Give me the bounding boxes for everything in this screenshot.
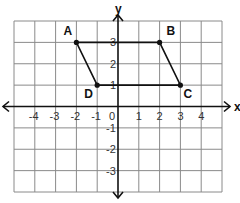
x-tick-label: 4 <box>198 110 204 122</box>
x-tick-label: -1 <box>91 110 101 122</box>
point-label-b: B <box>167 24 176 38</box>
x-tick-label: 1 <box>136 110 142 122</box>
point-label-d: D <box>84 87 93 101</box>
x-tick-label: -2 <box>70 110 80 122</box>
y-axis-label: y <box>115 2 122 16</box>
x-tick-label: 0 <box>109 110 115 122</box>
x-tick-label: 3 <box>177 110 183 122</box>
point-label-c: C <box>183 87 192 101</box>
coordinate-plane-diagram: xy -4-3-2-101234321-1-2-3 ABCD <box>0 0 240 203</box>
x-tick-label: -4 <box>29 110 39 122</box>
y-tick-label: -3 <box>106 165 116 177</box>
axes: xy <box>3 2 240 198</box>
vertex-points: ABCD <box>63 24 192 101</box>
x-tick-label: -3 <box>50 110 60 122</box>
x-axis-label: x <box>234 100 240 114</box>
point-d <box>95 83 100 88</box>
y-tick-label: 2 <box>110 58 116 70</box>
y-tick-label: -1 <box>106 122 116 134</box>
point-a <box>74 40 79 45</box>
point-c <box>178 83 183 88</box>
point-b <box>157 40 162 45</box>
point-label-a: A <box>63 24 72 38</box>
coordinate-grid: xy -4-3-2-101234321-1-2-3 ABCD <box>0 0 240 203</box>
y-tick-label: -2 <box>106 143 116 155</box>
x-tick-label: 2 <box>157 110 163 122</box>
